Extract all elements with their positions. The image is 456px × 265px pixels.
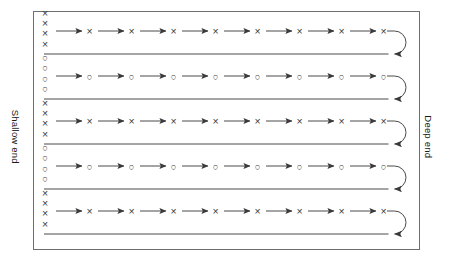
swimmer-group-2-marker-4: ○ [42, 83, 48, 94]
lane-2-swimmer-marker-8: ○ [381, 71, 387, 82]
lane-4-swimmer-marker-1: ○ [87, 161, 93, 172]
swimmer-group-4-marker-4: ○ [42, 173, 48, 184]
lane-1-swimmer-marker-8: × [381, 25, 387, 37]
lane-2-u-turn [394, 76, 406, 99]
lane-1-swimmer-marker-1: × [87, 25, 93, 37]
lane-5-swimmer-marker-8: × [381, 205, 387, 217]
pool-diagram-canvas: ××××××××○○○○○○○○××××××××○○○○○○○○××××××××… [0, 0, 456, 265]
lane-5: ×××××××× [44, 205, 406, 234]
lane-1-swimmer-marker-6: × [297, 25, 303, 37]
lane-4: ○○○○○○○○ [44, 161, 406, 190]
lane-1-u-turn [394, 31, 406, 54]
swimmer-group-5-marker-4: × [42, 218, 48, 230]
lane-2: ○○○○○○○○ [44, 71, 406, 100]
lane-3-u-turn [394, 121, 406, 144]
lane-3-swimmer-marker-6: × [297, 115, 303, 127]
lane-1-swimmer-marker-2: × [129, 25, 135, 37]
lane-2-swimmer-marker-6: ○ [297, 71, 303, 82]
lane-3-swimmer-marker-5: × [255, 115, 261, 127]
shallow-end-label: Shallow end [10, 109, 20, 165]
swimmer-group-1-marker-4: × [42, 38, 48, 50]
lane-4-swimmer-marker-6: ○ [297, 161, 303, 172]
lanes-group: ××××××××○○○○○○○○××××××××○○○○○○○○×××××××× [44, 25, 406, 234]
swimmer-group-5: ×××× [42, 187, 48, 230]
lane-3-swimmer-marker-3: × [171, 115, 177, 127]
swimmer-group-2: ○○○○ [42, 52, 48, 94]
lane-1: ×××××××× [44, 25, 406, 54]
lane-1-swimmer-marker-3: × [171, 25, 177, 37]
lane-4-swimmer-marker-8: ○ [381, 161, 387, 172]
lane-4-swimmer-marker-2: ○ [129, 161, 135, 172]
lane-5-swimmer-marker-3: × [171, 205, 177, 217]
swimmer-group-3-marker-4: × [42, 128, 48, 140]
deep-end-label: Deep end [423, 109, 433, 165]
swimmer-markers-group: ××××○○○○××××○○○○×××× [42, 7, 48, 230]
lane-5-swimmer-marker-2: × [129, 205, 135, 217]
swimmer-group-3: ×××× [42, 97, 48, 140]
lane-5-swimmer-marker-7: × [339, 205, 345, 217]
lane-2-swimmer-marker-3: ○ [171, 71, 177, 82]
lane-3-swimmer-marker-1: × [87, 115, 93, 127]
lane-5-swimmer-marker-1: × [87, 205, 93, 217]
lane-2-swimmer-marker-2: ○ [129, 71, 135, 82]
lane-2-swimmer-marker-4: ○ [213, 71, 219, 82]
lane-3-swimmer-marker-7: × [339, 115, 345, 127]
lane-4-swimmer-marker-4: ○ [213, 161, 219, 172]
lane-5-swimmer-marker-6: × [297, 205, 303, 217]
lane-1-swimmer-marker-7: × [339, 25, 345, 37]
lane-2-swimmer-marker-5: ○ [255, 71, 261, 82]
lane-5-swimmer-marker-5: × [255, 205, 261, 217]
lane-3-swimmer-marker-4: × [213, 115, 219, 127]
lane-5-u-turn [394, 211, 406, 234]
swimmer-group-4: ○○○○ [42, 142, 48, 184]
lane-3-swimmer-marker-2: × [129, 115, 135, 127]
lane-2-swimmer-marker-1: ○ [87, 71, 93, 82]
lane-5-swimmer-marker-4: × [213, 205, 219, 217]
lane-3: ×××××××× [44, 115, 406, 144]
lane-4-u-turn [394, 166, 406, 189]
lane-3-swimmer-marker-8: × [381, 115, 387, 127]
lane-4-swimmer-marker-3: ○ [171, 161, 177, 172]
lane-2-swimmer-marker-7: ○ [339, 71, 345, 82]
lane-1-swimmer-marker-5: × [255, 25, 261, 37]
lane-4-swimmer-marker-7: ○ [339, 161, 345, 172]
swimmer-group-1: ×××× [42, 7, 48, 50]
lane-1-swimmer-marker-4: × [213, 25, 219, 37]
lane-4-swimmer-marker-5: ○ [255, 161, 261, 172]
